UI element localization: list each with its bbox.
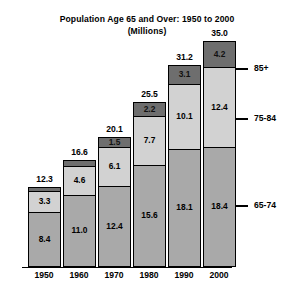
bar-group-1980: 25.5 2.2 7.7 15.6 — [133, 102, 166, 267]
bar-segment-65-74-1990: 18.1 — [168, 149, 201, 267]
bar-segment-value: 15.6 — [141, 211, 157, 219]
chart-title-block: Population Age 65 and Over: 1950 to 2000… — [0, 14, 294, 37]
bar-total-label-1980: 25.5 — [141, 90, 158, 99]
bar-total-label-1970: 20.1 — [106, 125, 123, 134]
bar-segment-85plus-2000: 4.2 — [203, 41, 236, 68]
bar-segment-value: 12.4 — [211, 103, 227, 111]
x-tick-label-1970: 1970 — [94, 270, 134, 281]
bar-segment-value: 18.4 — [211, 202, 227, 210]
bar-segment-value: 8.4 — [39, 235, 51, 243]
bar-segment-value: 18.1 — [176, 203, 192, 211]
bar-group-2000: 35.0 4.2 12.4 18.4 — [203, 41, 236, 267]
legend-leader-line — [236, 118, 248, 120]
bar-segment-value: 6.1 — [109, 162, 121, 170]
bar-total-label-2000: 35.0 — [211, 29, 228, 38]
bar-segment-75-84-1970: 6.1 — [98, 147, 131, 187]
bar-total-label-1990: 31.2 — [176, 53, 193, 62]
bar-segment-value: 12.4 — [106, 222, 122, 230]
bar-group-1950: 12.3 3.3 8.4 — [28, 187, 61, 267]
x-tick-label-2000: 2000 — [199, 270, 239, 281]
bar-segment-65-74-2000: 18.4 — [203, 147, 236, 267]
bar-segment-65-74-1950: 8.4 — [28, 212, 61, 267]
bar-total-label-1950: 12.3 — [36, 175, 53, 184]
bar-segment-value: 10.1 — [176, 112, 192, 120]
x-axis-tick-labels: 1950 1960 1970 1980 1990 2000 — [22, 270, 232, 286]
chart-subtitle: (Millions) — [0, 26, 294, 38]
x-tick-label-1950: 1950 — [24, 270, 64, 281]
bar-group-1960: 16.6 4.6 11.0 — [63, 160, 96, 267]
bar-segment-value: 2.2 — [144, 105, 156, 113]
x-tick-label-1990: 1990 — [164, 270, 204, 281]
bar-segment-value: 3.1 — [179, 70, 191, 78]
bar-segment-value: 4.6 — [74, 176, 86, 184]
chart-title: Population Age 65 and Over: 1950 to 2000 — [0, 14, 294, 26]
bar-segment-85plus-1990: 3.1 — [168, 65, 201, 85]
bar-segment-85plus-1980: 2.2 — [133, 102, 166, 117]
x-tick-label-1980: 1980 — [129, 270, 169, 281]
bar-segment-75-84-1990: 10.1 — [168, 84, 201, 150]
bar-segment-value: 11.0 — [72, 226, 88, 234]
legend-label-85plus: 85+ — [254, 63, 269, 73]
bar-segment-75-84-2000: 12.4 — [203, 67, 236, 148]
bar-segment-65-74-1960: 11.0 — [63, 195, 96, 267]
legend-label-65-74: 65-74 — [254, 200, 276, 210]
bar-segment-value: 7.7 — [144, 136, 156, 144]
x-tick-label-1960: 1960 — [59, 270, 99, 281]
plot-area: 12.3 3.3 8.4 16.6 4.6 11.0 — [22, 40, 232, 268]
bar-segment-75-84-1980: 7.7 — [133, 116, 166, 166]
bar-group-1970: 20.1 1.5 6.1 12.4 — [98, 137, 131, 267]
bar-segment-75-84-1950: 3.3 — [28, 191, 61, 213]
bar-total-label-1960: 16.6 — [71, 148, 88, 157]
legend-label-75-84: 75-84 — [254, 113, 276, 123]
population-stacked-bar-chart: Population Age 65 and Over: 1950 to 2000… — [0, 0, 294, 306]
bar-segment-75-84-1960: 4.6 — [63, 166, 96, 196]
bar-segment-65-74-1970: 12.4 — [98, 186, 131, 267]
bar-segment-value: 4.2 — [214, 50, 226, 58]
bar-segment-value: 3.3 — [39, 197, 51, 205]
legend-leader-line — [236, 68, 248, 70]
bar-group-1990: 31.2 3.1 10.1 18.1 — [168, 65, 201, 267]
bar-segment-value: 1.5 — [109, 138, 121, 146]
x-axis-line — [22, 267, 232, 269]
legend-leader-line — [236, 205, 248, 207]
bar-segment-65-74-1980: 15.6 — [133, 165, 166, 267]
